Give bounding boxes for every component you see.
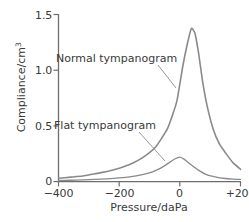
x-tick-label-0: 0 [154, 187, 205, 200]
tympanogram-chart: 1.5 1.0 0.5 0 −400 −200 0 +200 Complianc… [0, 0, 249, 222]
leader-line-normal [158, 65, 176, 88]
y-axis-ticks [54, 15, 59, 182]
y-axis-label-text: Compliance/cm [15, 47, 28, 132]
y-axis-label: Compliance/cm3 [14, 27, 29, 147]
y-tick-label-1.5: 1.5 [8, 9, 52, 22]
series-annotation-flat-tympanogram: Flat tympanogram [54, 119, 156, 132]
series-line-normal-tympanogram [59, 28, 241, 178]
x-tick-label-minus200: −200 [94, 187, 145, 200]
x-axis-ticks [59, 182, 241, 187]
x-tick-label-plus200: +200 [215, 187, 249, 200]
series-annotation-normal-tympanogram: Normal tympanogram [56, 52, 177, 65]
y-axis-label-superscript: 3 [14, 42, 23, 47]
x-axis-label: Pressure/daPa [58, 201, 240, 214]
series-line-flat-tympanogram [59, 157, 241, 180]
x-tick-label-minus400: −400 [33, 187, 84, 200]
